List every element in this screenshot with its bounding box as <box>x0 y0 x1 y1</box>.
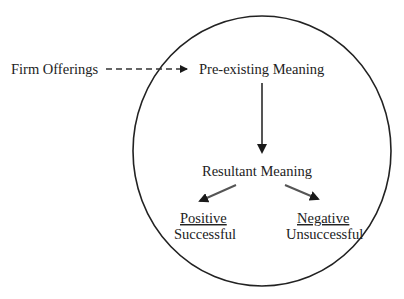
pre-existing-meaning-label: Pre-existing Meaning <box>199 61 324 77</box>
left-arrow-icon <box>200 185 236 201</box>
successful-label: Successful <box>174 226 236 242</box>
negative-label: Negative <box>297 210 349 226</box>
meaning-diagram: Firm Offerings Pre-existing Meaning Resu… <box>0 0 404 299</box>
resultant-meaning-label: Resultant Meaning <box>202 163 312 179</box>
unsuccessful-label: Unsuccessful <box>286 226 363 242</box>
right-arrow-icon <box>285 185 318 199</box>
positive-label: Positive <box>180 210 227 226</box>
firm-offerings-label: Firm Offerings <box>11 61 98 77</box>
